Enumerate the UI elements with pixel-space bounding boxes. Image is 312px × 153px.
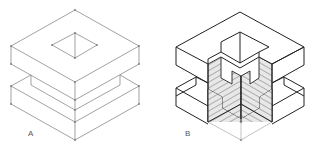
view-b-drawing: [176, 12, 304, 141]
view-a-top-slab: [11, 10, 139, 100]
view-b-section-faces: [208, 57, 272, 122]
view-b-label: B: [185, 129, 190, 138]
technical-drawing: A B: [0, 0, 312, 153]
view-a-drawing: [10, 9, 140, 141]
view-a-label: A: [28, 129, 33, 138]
drawing-canvas: [0, 0, 312, 153]
view-a-square-opening: [52, 33, 97, 58]
